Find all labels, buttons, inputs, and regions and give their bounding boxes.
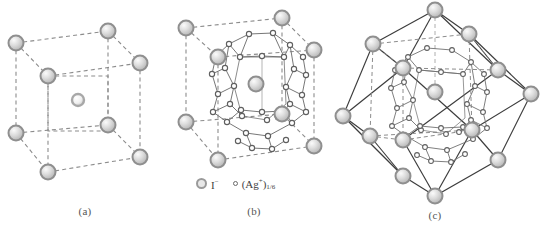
central-silver-site-a bbox=[72, 94, 84, 106]
legend-item-silver: (Ag+)1/6 bbox=[233, 177, 276, 191]
caption-a: (a) bbox=[65, 205, 105, 217]
silver-marker-icon bbox=[233, 181, 238, 186]
legend-label-iodide: I− bbox=[211, 178, 219, 191]
caption-c: (c) bbox=[415, 209, 455, 221]
panel-a-bcc-cube bbox=[0, 0, 175, 200]
panel-b-truncated-octahedron bbox=[172, 0, 344, 175]
iodide-marker-icon bbox=[196, 178, 207, 189]
legend: I− (Ag+)1/6 bbox=[196, 177, 275, 191]
caption-b: (b) bbox=[234, 205, 274, 217]
iodide-atoms-c bbox=[336, 3, 539, 204]
figure-root: I− (Ag+)1/6 (a) (b) (c) bbox=[0, 0, 542, 227]
legend-item-iodide: I− bbox=[196, 178, 219, 191]
panel-c-extended-framework bbox=[335, 0, 542, 200]
legend-label-silver: (Ag+)1/6 bbox=[242, 177, 276, 191]
